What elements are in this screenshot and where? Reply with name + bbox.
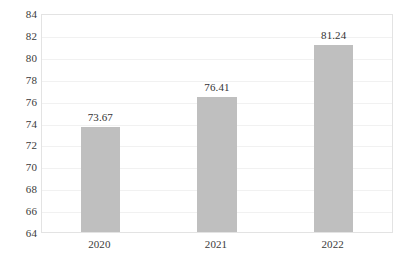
y-tick-label: 64 bbox=[3, 228, 37, 239]
bar-2021[interactable] bbox=[197, 97, 237, 232]
x-tick-label-2021: 2021 bbox=[158, 238, 275, 250]
y-tick-label: 68 bbox=[3, 184, 37, 195]
y-tick-label: 84 bbox=[3, 9, 37, 20]
y-tick-label: 76 bbox=[3, 96, 37, 107]
y-tick-label: 82 bbox=[3, 30, 37, 41]
y-tick-label: 72 bbox=[3, 140, 37, 151]
y-axis: 84 82 80 78 76 74 72 70 68 66 64 bbox=[0, 14, 37, 233]
x-axis: 2020 2021 2022 bbox=[41, 238, 393, 254]
y-tick-label: 74 bbox=[3, 118, 37, 129]
bar-value-label-2022: 81.24 bbox=[275, 30, 392, 41]
bar-2020[interactable] bbox=[81, 127, 121, 232]
x-tick-label-2022: 2022 bbox=[274, 238, 391, 250]
y-tick-label: 78 bbox=[3, 74, 37, 85]
x-tick-label-2020: 2020 bbox=[41, 238, 158, 250]
plot-area: 73.67 76.41 81.24 bbox=[41, 14, 393, 233]
y-tick-label: 66 bbox=[3, 206, 37, 217]
bar-value-label-2021: 76.41 bbox=[159, 82, 276, 93]
y-tick-label: 80 bbox=[3, 52, 37, 63]
bar-value-label-2020: 73.67 bbox=[42, 112, 159, 123]
bar-chart: 84 82 80 78 76 74 72 70 68 66 64 73.67 7… bbox=[0, 0, 420, 262]
bar-2022[interactable] bbox=[314, 45, 354, 232]
y-tick-label: 70 bbox=[3, 162, 37, 173]
